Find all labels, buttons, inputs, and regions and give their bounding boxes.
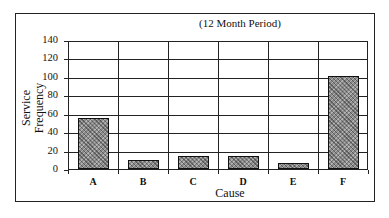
x-tick-label: A	[68, 176, 118, 187]
x-tick-mark	[318, 170, 319, 174]
y-tick-label: 140	[38, 34, 58, 45]
plot-area	[68, 41, 368, 170]
x-tick-mark	[168, 170, 169, 174]
bar-f	[328, 76, 359, 169]
x-tick-label: F	[318, 176, 368, 187]
bar-c	[178, 156, 209, 169]
x-tick-mark	[218, 170, 219, 174]
gridline-vertical	[168, 42, 169, 169]
y-tick-label: 40	[38, 126, 58, 137]
gridline-vertical	[218, 42, 219, 169]
x-axis-title: Cause	[180, 186, 280, 201]
y-tick-label: 0	[38, 163, 58, 174]
x-tick-mark	[68, 170, 69, 174]
bar-d	[228, 156, 259, 169]
y-tick-label: 80	[38, 89, 58, 100]
gridline-vertical	[118, 42, 119, 169]
y-tick-label: 100	[38, 71, 58, 82]
x-tick-mark	[368, 170, 369, 174]
y-tick-label: 60	[38, 108, 58, 119]
bar-b	[128, 160, 159, 169]
x-tick-label: B	[118, 176, 168, 187]
bar-e	[278, 163, 309, 169]
chart-subtitle: (12 Month Period)	[180, 17, 300, 29]
gridline-vertical	[268, 42, 269, 169]
x-tick-mark	[268, 170, 269, 174]
gridline-vertical	[318, 42, 319, 169]
bar-a	[78, 118, 109, 169]
y-tick-label: 120	[38, 52, 58, 63]
x-tick-mark	[118, 170, 119, 174]
y-tick-label: 20	[38, 145, 58, 156]
